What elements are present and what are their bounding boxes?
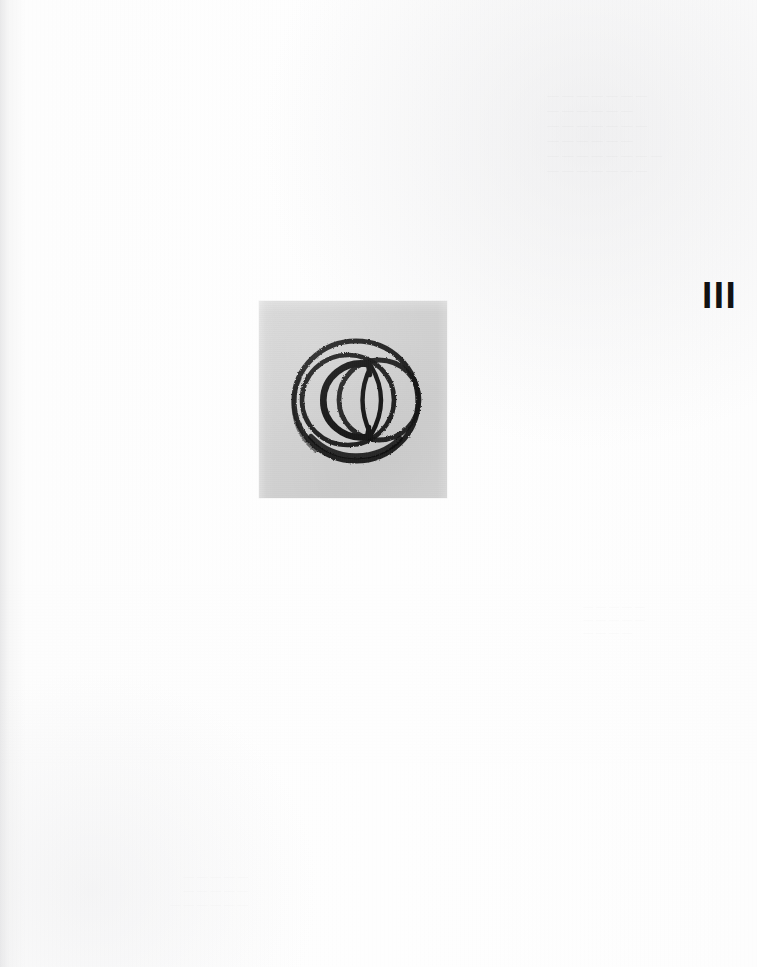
photograph-plate [259, 301, 447, 498]
bleed-through-text-mid-right: — — — — — — — — — — — — — — [583, 600, 733, 639]
plate-page: — — — — — — — — — — — — — — — — — — — — … [0, 0, 757, 967]
bleed-through-text-lower-left: — — — — — — — — — — — — — — — — [18, 870, 248, 912]
plate-numeral: III [702, 277, 737, 314]
artwork-drawing [259, 301, 447, 498]
bleed-through-text-top-right: — — — — — — — — — — — — — — — — — — — — … [547, 88, 743, 178]
